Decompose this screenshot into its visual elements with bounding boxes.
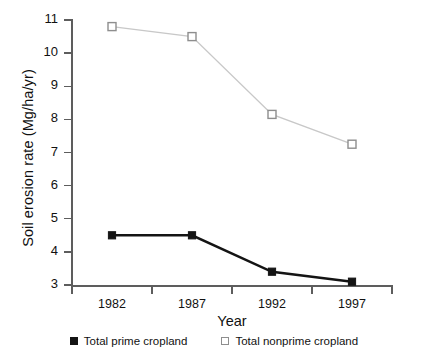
data-point-marker [188, 232, 195, 239]
chart-figure: Soil erosion rate (Mg/ha/yr) 34567891011… [0, 0, 428, 363]
y-axis-tick-label: 3 [18, 277, 58, 290]
y-axis-tick-label: 8 [18, 111, 58, 124]
series-line [112, 27, 352, 145]
y-axis-tick-label: 10 [18, 45, 58, 58]
legend-item: Total prime cropland [70, 335, 188, 347]
y-axis-tick-label: 11 [18, 12, 58, 25]
x-axis-tick-label: 1992 [242, 297, 302, 311]
y-axis-tick [64, 86, 72, 87]
chart-legend: Total prime croplandTotal nonprime cropl… [0, 335, 428, 347]
y-axis-tick [64, 119, 72, 120]
legend-item: Total nonprime cropland [221, 335, 358, 347]
filled-square-icon [70, 337, 78, 345]
x-axis-tick [151, 286, 152, 294]
y-axis-tick-label: 7 [18, 145, 58, 158]
data-point-marker [108, 23, 116, 31]
data-point-marker [268, 268, 275, 275]
y-axis-title: Soil erosion rate (Mg/ha/yr) [20, 38, 36, 278]
y-axis-tick [64, 152, 72, 153]
legend-item-label: Total prime cropland [84, 335, 188, 347]
x-axis-tick-label: 1997 [322, 297, 382, 311]
x-axis-title: Year [71, 313, 393, 329]
x-axis-tick-label: 1987 [162, 297, 222, 311]
y-axis-tick-label: 5 [18, 211, 58, 224]
data-point-marker [188, 33, 196, 41]
data-point-marker [348, 140, 356, 148]
y-axis-tick-label: 4 [18, 244, 58, 257]
legend-item-label: Total nonprime cropland [235, 335, 358, 347]
data-point-marker [268, 110, 276, 118]
series-line [112, 235, 352, 281]
data-point-marker [108, 232, 115, 239]
x-axis-tick [311, 286, 312, 294]
y-axis-tick [64, 251, 72, 252]
open-square-icon [221, 337, 229, 345]
x-axis-tick [391, 286, 392, 294]
y-axis-tick-label: 9 [18, 78, 58, 91]
x-axis-tick [71, 286, 72, 294]
y-axis-tick [64, 19, 72, 20]
y-axis-tick-label: 6 [18, 178, 58, 191]
y-axis-tick [64, 52, 72, 53]
x-axis-tick-label: 1982 [82, 297, 142, 311]
y-axis-tick [64, 185, 72, 186]
x-axis-tick [231, 286, 232, 294]
y-axis-tick [64, 218, 72, 219]
